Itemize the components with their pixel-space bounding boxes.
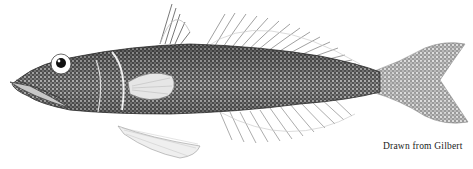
caudal-fin [372, 43, 468, 123]
first-dorsal-fin [160, 4, 190, 45]
figure-caption: Drawn from Gilbert [383, 141, 463, 151]
eye [51, 54, 71, 74]
